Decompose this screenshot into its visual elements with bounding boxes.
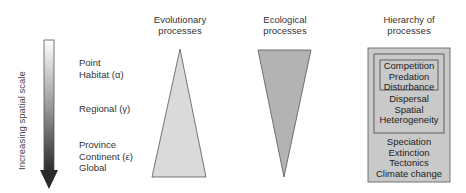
scale-label-province: Province — [79, 139, 133, 151]
process-dispersal: Dispersal — [374, 94, 444, 105]
axis-label: Increasing spatial scale — [16, 71, 27, 170]
process-heterogeneity: Heterogeneity — [374, 115, 444, 126]
scale-label-habitat: Habitat (α) — [79, 69, 124, 81]
process-tectonics: Tectonics — [368, 158, 450, 169]
ecological-title-line1: Ecological — [245, 14, 325, 25]
scale-level-local: Point Habitat (α) — [79, 57, 124, 80]
process-competition: Competition — [380, 61, 438, 72]
scale-label-continent: Continent (ε) — [79, 151, 133, 163]
process-disturbance: Disturbance — [380, 82, 438, 93]
ecological-title-line2: processes — [245, 25, 325, 36]
hierarchy-title-line1: Hierarchy of — [369, 14, 449, 25]
scale-arrow-icon — [40, 40, 58, 189]
hierarchy-inner-text: Competition Predation Disturbance — [380, 61, 438, 93]
scale-level-global: Province Continent (ε) Global — [79, 139, 133, 174]
evolutionary-title-line1: Evolutionary — [140, 14, 220, 25]
ecological-title: Ecological processes — [245, 14, 325, 36]
ecological-triangle — [258, 50, 311, 177]
process-climate-change: Climate change — [368, 169, 450, 180]
process-speciation: Speciation — [368, 137, 450, 148]
scale-label-point: Point — [79, 57, 124, 69]
hierarchy-title: Hierarchy of processes — [369, 14, 449, 36]
evolutionary-title: Evolutionary processes — [140, 14, 220, 36]
scale-label-global: Global — [79, 162, 133, 174]
scale-level-regional: Regional (γ) — [79, 103, 130, 115]
hierarchy-title-line2: processes — [369, 25, 449, 36]
evolutionary-title-line2: processes — [140, 25, 220, 36]
hierarchy-middle-text: Dispersal Spatial Heterogeneity — [374, 94, 444, 126]
scale-label-regional: Regional (γ) — [79, 103, 130, 115]
hierarchy-outer-text: Speciation Extinction Tectonics Climate … — [368, 137, 450, 179]
evolutionary-triangle — [152, 49, 206, 177]
